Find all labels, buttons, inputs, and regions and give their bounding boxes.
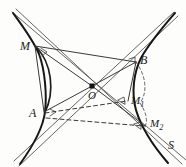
subscript-2: 2 bbox=[159, 123, 163, 132]
figure-canvas bbox=[0, 0, 186, 167]
angle-tick-at-A bbox=[50, 109, 56, 116]
chord-B-to-O bbox=[92, 62, 136, 86]
label-point-A: A bbox=[29, 107, 36, 119]
dashed-A-to-M2 bbox=[46, 118, 144, 126]
chord-M-to-B bbox=[35, 46, 136, 62]
label-point-B: B bbox=[140, 54, 147, 66]
label-point-M: M bbox=[20, 40, 30, 52]
chord-M-to-O bbox=[35, 46, 92, 86]
label-point-M2: M2 bbox=[150, 118, 163, 132]
label-point-S: S bbox=[168, 139, 174, 151]
label-point-O: O bbox=[88, 90, 96, 101]
arc-left-lens-M-to-A bbox=[36, 47, 51, 112]
subscript-1: 1 bbox=[140, 100, 144, 109]
geometry-figure: M B O A M1 M2 S bbox=[0, 0, 186, 167]
center-node-O bbox=[90, 84, 95, 89]
label-point-M1: M1 bbox=[131, 95, 144, 109]
